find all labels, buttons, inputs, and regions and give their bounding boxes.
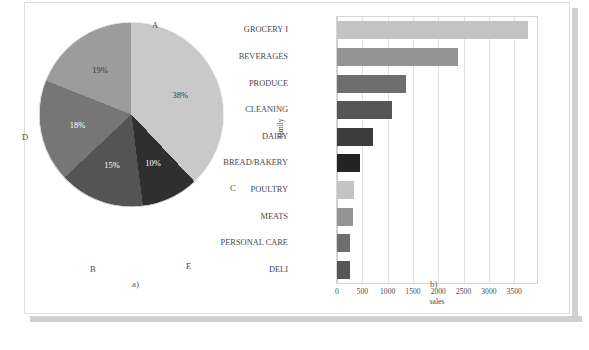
panel-a-caption: a) bbox=[132, 279, 139, 289]
y-tick-meats: MEATS bbox=[261, 212, 288, 221]
x-tick-1500: 1500 bbox=[405, 287, 420, 296]
bar-bread-bakery bbox=[337, 154, 360, 172]
bar-row bbox=[337, 208, 537, 226]
x-tick-0: 0 bbox=[335, 287, 339, 296]
bar-row bbox=[337, 101, 537, 119]
figure-shadow-right bbox=[572, 8, 578, 318]
bar-chart-x-axis-title: sales bbox=[430, 297, 445, 306]
pie-label-b: B bbox=[90, 264, 96, 274]
figure-shadow-bottom bbox=[30, 316, 582, 322]
bar-row bbox=[337, 234, 537, 252]
bar-row bbox=[337, 181, 537, 199]
bar-meats bbox=[337, 208, 353, 226]
bar-chart-plot-area bbox=[336, 16, 538, 284]
x-tick-500: 500 bbox=[357, 287, 368, 296]
x-tick-3500: 3500 bbox=[507, 287, 522, 296]
panel-b-caption: b) bbox=[430, 279, 438, 289]
bar-row bbox=[337, 261, 537, 279]
y-tick-cleaning: CLEANING bbox=[245, 105, 288, 114]
y-tick-bread-bakery: BREAD/BAKERY bbox=[223, 158, 288, 167]
pie-slice-value-d: 19% bbox=[92, 65, 108, 75]
bar-grocery-i bbox=[337, 21, 528, 39]
pie-chart-area: 38%10%15%18%19% ABCDE bbox=[34, 16, 234, 266]
bar-dairy bbox=[337, 128, 373, 146]
y-tick-poultry: POULTRY bbox=[251, 185, 288, 194]
pie-label-c: C bbox=[230, 183, 236, 193]
panel-b-bar-chart: family GROCERY IBEVERAGESPRODUCECLEANING… bbox=[262, 2, 570, 314]
bar-deli bbox=[337, 261, 350, 279]
bar-beverages bbox=[337, 48, 458, 66]
bar-row bbox=[337, 128, 537, 146]
bar-produce bbox=[337, 75, 406, 93]
pie-slice-value-a: 38% bbox=[172, 90, 188, 100]
x-tick-1000: 1000 bbox=[380, 287, 395, 296]
bar-row bbox=[337, 21, 537, 39]
bar-row bbox=[337, 75, 537, 93]
y-tick-beverages: BEVERAGES bbox=[239, 52, 288, 61]
pie-chart bbox=[39, 22, 224, 207]
x-tick-2500: 2500 bbox=[456, 287, 471, 296]
bar-cleaning bbox=[337, 101, 392, 119]
y-tick-produce: PRODUCE bbox=[249, 79, 288, 88]
y-tick-grocery-i: GROCERY I bbox=[244, 25, 288, 34]
y-tick-deli: DELI bbox=[269, 265, 288, 274]
figure-container: 38%10%15%18%19% ABCDE a) family GROCERY … bbox=[0, 0, 589, 350]
y-tick-dairy: DAIRY bbox=[262, 132, 288, 141]
pie-slice-value-e: 15% bbox=[104, 160, 120, 170]
bar-row bbox=[337, 154, 537, 172]
bar-personal-care bbox=[337, 234, 350, 252]
pie-slice-value-b: 18% bbox=[70, 120, 86, 130]
bar-row bbox=[337, 48, 537, 66]
x-tick-3000: 3000 bbox=[481, 287, 496, 296]
pie-label-a: A bbox=[152, 20, 158, 30]
pie-label-d: D bbox=[22, 132, 28, 142]
pie-label-e: E bbox=[186, 261, 191, 271]
pie-slice-value-c: 10% bbox=[145, 158, 161, 168]
bar-poultry bbox=[337, 181, 354, 199]
y-tick-personal-care: PERSONAL CARE bbox=[221, 238, 288, 247]
